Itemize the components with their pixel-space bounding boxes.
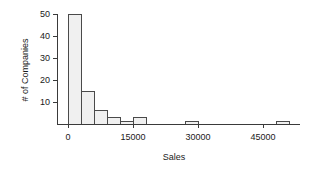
histogram-bar	[94, 111, 107, 124]
histogram-plot: 1020304050 0150003000045000 Sales # of C…	[0, 0, 312, 172]
y-tick-label: 40	[40, 31, 50, 41]
x-axis-title: Sales	[163, 152, 186, 162]
y-tick-label: 30	[40, 53, 50, 63]
histogram-figure: 1020304050 0150003000045000 Sales # of C…	[0, 0, 312, 172]
histogram-bar	[133, 117, 146, 124]
bars-group	[68, 14, 289, 124]
histogram-bar	[68, 14, 81, 124]
y-tick-label: 50	[40, 9, 50, 19]
histogram-bar	[81, 91, 94, 124]
x-tick-label: 0	[65, 132, 70, 142]
y-tick-label: 20	[40, 75, 50, 85]
x-tick-label: 45000	[250, 132, 275, 142]
x-tick-labels: 0150003000045000	[65, 132, 275, 142]
x-tick-label: 30000	[185, 132, 210, 142]
x-tick-label: 15000	[120, 132, 145, 142]
y-tick-labels: 1020304050	[40, 9, 50, 107]
y-tick-label: 10	[40, 97, 50, 107]
y-axis-title: # of Companies	[20, 38, 30, 102]
histogram-bar	[107, 117, 120, 124]
